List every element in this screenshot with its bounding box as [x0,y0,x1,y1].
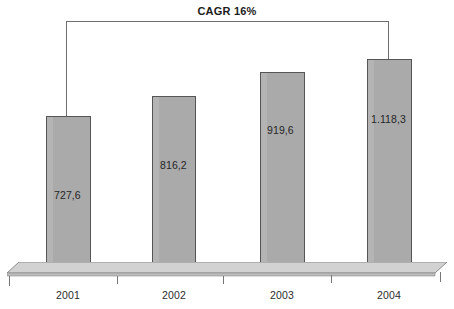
bar-chart: CAGR 16% 727,6 816,2 919,6 1.118,3 2001 … [0,0,454,309]
bar-highlight [153,97,159,273]
axis-tick-2 [223,276,224,284]
bar-2003 [260,72,305,273]
platform-top-face [7,262,447,273]
cagr-bracket-horizontal [66,21,389,22]
cagr-bracket-left-stem [66,21,67,116]
bar-value-2001: 727,6 [54,189,81,201]
axis-tick-3 [331,275,332,283]
chart-title: CAGR 16% [0,5,454,17]
bar-highlight [368,60,374,273]
axis-tick-1 [117,276,118,284]
x-axis-label-2002: 2002 [144,289,204,301]
axis-tick-0 [9,276,10,286]
x-axis-label-2003: 2003 [252,289,312,301]
bar-value-2003: 919,6 [267,124,294,136]
bar-value-2002: 816,2 [160,159,187,171]
cagr-bracket-right-stem [388,21,389,59]
x-axis-label-2001: 2001 [38,289,98,301]
platform-front-face [7,273,435,276]
bar-highlight [261,73,267,273]
bar-2002 [152,96,196,273]
axis-tick-4 [440,272,441,282]
chart-base-platform [7,262,447,281]
bar-highlight [47,117,53,273]
bar-2004 [367,59,412,273]
platform-shape [7,262,447,281]
bar-value-2004: 1.118,3 [371,113,406,125]
x-axis-label-2004: 2004 [359,289,419,301]
